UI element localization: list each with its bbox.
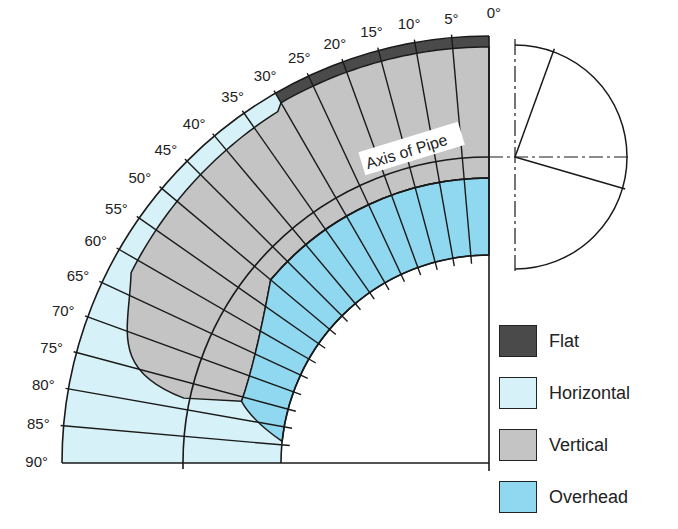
angle-label: 50° — [128, 169, 151, 186]
legend-item-flat: Flat — [499, 325, 630, 357]
legend-item-overhead: Overhead — [499, 481, 630, 513]
legend-item-horizontal: Horizontal — [499, 377, 630, 409]
angle-label: 60° — [84, 232, 107, 249]
legend-label: Horizontal — [549, 383, 630, 404]
angle-label: 40° — [183, 115, 206, 132]
legend-label: Vertical — [549, 435, 608, 456]
overhead-swatch — [499, 481, 537, 513]
angle-label: 70° — [52, 302, 75, 319]
horizontal-swatch — [499, 377, 537, 409]
angle-label: 90° — [25, 453, 48, 470]
vertical-swatch — [499, 429, 537, 461]
angle-label: 85° — [27, 415, 50, 432]
angle-label: 15° — [360, 23, 383, 40]
legend-item-vertical: Vertical — [499, 429, 630, 461]
angle-label: 55° — [105, 200, 128, 217]
angle-label: 25° — [288, 49, 311, 66]
legend-label: Overhead — [549, 487, 628, 508]
angle-label: 30° — [254, 67, 277, 84]
angle-label: 10° — [398, 15, 421, 32]
angle-label: 45° — [154, 141, 177, 158]
angle-label: 0° — [487, 4, 501, 21]
angle-label: 65° — [67, 267, 90, 284]
flat-swatch — [499, 325, 537, 357]
legend: Flat Horizontal Vertical Overhead — [499, 325, 630, 513]
angle-label: 75° — [40, 339, 63, 356]
angle-label: 5° — [444, 10, 458, 27]
angle-label: 20° — [323, 35, 346, 52]
angle-label: 35° — [221, 88, 244, 105]
legend-label: Flat — [549, 331, 579, 352]
angle-label: 80° — [32, 376, 55, 393]
